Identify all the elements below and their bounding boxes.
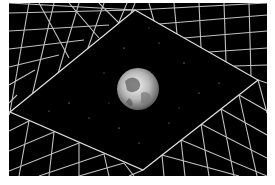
earth: [117, 68, 159, 110]
scene-svg: [9, 3, 267, 176]
photo: [9, 3, 267, 176]
